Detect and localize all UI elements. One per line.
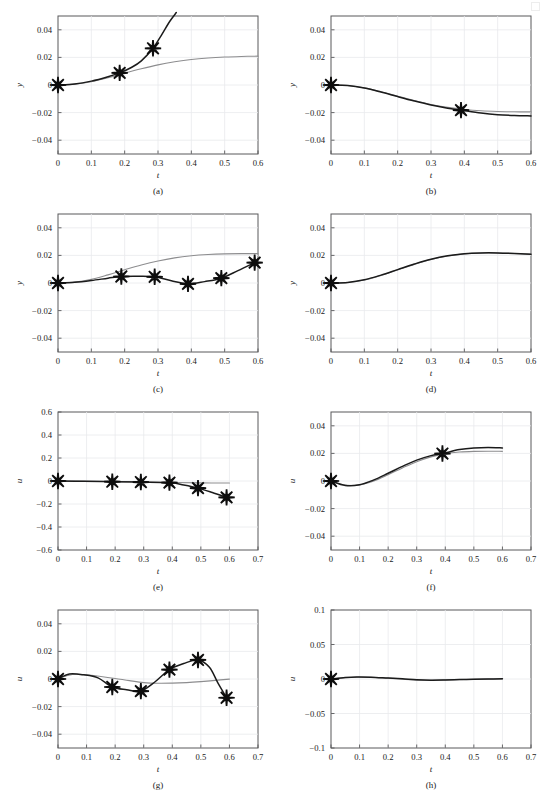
subplot-c: 00.10.20.30.40.50.6−0.04−0.0200.020.04ty… <box>0 198 273 396</box>
marker-point <box>434 445 450 461</box>
y-tick-label: 0 <box>321 278 325 288</box>
x-tick-label: 0.2 <box>383 752 394 762</box>
y-axis-label: u <box>287 676 297 681</box>
subplot-caption: (a) <box>153 186 163 196</box>
x-axis-label: t <box>430 764 433 774</box>
x-tick-label: 0.6 <box>253 158 264 168</box>
x-tick-label: 0.5 <box>468 752 479 762</box>
figure-canvas: 00.10.20.30.40.50.6−0.04−0.0200.020.04ty… <box>0 0 546 795</box>
y-tick-label: −0.04 <box>32 333 53 343</box>
x-tick-label: 0.6 <box>497 752 508 762</box>
data-markers <box>323 671 339 687</box>
y-tick-label: 0.02 <box>37 250 52 260</box>
x-tick-label: 0.3 <box>411 554 422 564</box>
y-tick-label: 0.05 <box>310 640 325 650</box>
y-tick-label: −0.02 <box>32 702 52 712</box>
x-tick-label: 0.2 <box>392 356 403 366</box>
subplot-caption: (e) <box>153 582 163 592</box>
y-tick-label: −0.1 <box>309 743 325 753</box>
subplot-g: 00.10.20.30.40.50.60.7−0.04−0.0200.020.0… <box>0 594 273 792</box>
marker-point <box>323 671 339 687</box>
x-tick-label: 0 <box>329 356 333 366</box>
x-tick-label: 0 <box>329 554 333 564</box>
marker-point <box>104 473 120 489</box>
x-tick-label: 0 <box>329 752 333 762</box>
x-tick-label: 0.1 <box>81 752 92 762</box>
y-tick-label: −0.2 <box>36 499 52 509</box>
x-tick-label: 0.5 <box>195 554 206 564</box>
marker-point <box>246 254 262 270</box>
x-tick-label: 0.6 <box>253 356 264 366</box>
x-tick-label: 0.5 <box>219 356 230 366</box>
subplot-caption: (f) <box>427 582 436 592</box>
y-tick-label: 0.04 <box>37 223 53 233</box>
subplot-d: 00.10.20.30.40.50.6−0.04−0.0200.020.04ty… <box>273 198 546 396</box>
y-tick-label: 0.04 <box>37 25 53 35</box>
y-tick-label: −0.02 <box>305 108 325 118</box>
marker-point <box>113 268 129 284</box>
y-tick-label: −0.04 <box>32 729 53 739</box>
y-tick-label: 0.04 <box>310 25 326 35</box>
x-tick-label: 0.4 <box>440 554 451 564</box>
y-axis-label: u <box>14 676 24 681</box>
x-tick-label: 0.5 <box>195 752 206 762</box>
y-tick-label: 0.02 <box>310 52 325 62</box>
y-tick-label: −0.04 <box>305 135 326 145</box>
y-tick-label: 0.2 <box>41 453 52 463</box>
x-tick-label: 0.1 <box>359 158 370 168</box>
x-tick-label: 0.2 <box>119 356 130 366</box>
marker-point <box>111 65 127 81</box>
x-tick-label: 0.4 <box>167 752 178 762</box>
y-tick-label: 0.02 <box>310 448 325 458</box>
x-tick-label: 0.1 <box>354 554 365 564</box>
marker-point <box>218 690 234 706</box>
y-tick-label: 0.4 <box>41 430 52 440</box>
x-tick-label: 0.1 <box>86 356 97 366</box>
x-tick-label: 0.2 <box>119 158 130 168</box>
subplot-caption: (h) <box>426 780 437 790</box>
marker-point <box>50 473 66 489</box>
subplot-f: 00.10.20.30.40.50.60.7−0.04−0.0200.020.0… <box>273 396 546 594</box>
x-tick-label: 0.3 <box>153 356 164 366</box>
y-axis-label: y <box>287 281 297 286</box>
y-tick-label: 0.1 <box>314 605 325 615</box>
x-tick-label: 0.7 <box>253 752 264 762</box>
x-tick-label: 0.3 <box>426 158 437 168</box>
y-tick-label: 0.02 <box>37 646 52 656</box>
y-tick-label: −0.6 <box>36 545 52 555</box>
x-tick-label: 0 <box>56 554 60 564</box>
x-axis-label: t <box>157 368 160 378</box>
y-tick-label: −0.04 <box>32 135 53 145</box>
y-axis-label: y <box>287 83 297 88</box>
subplot-caption: (g) <box>153 780 164 790</box>
x-tick-label: 0.7 <box>526 752 537 762</box>
subplot-caption: (b) <box>426 186 437 196</box>
y-tick-label: 0 <box>48 674 52 684</box>
y-tick-label: 0.04 <box>310 421 326 431</box>
x-tick-label: 0.5 <box>492 158 503 168</box>
y-tick-label: 0 <box>321 80 325 90</box>
x-axis-label: t <box>430 368 433 378</box>
y-axis-label: y <box>14 281 24 286</box>
x-tick-label: 0.3 <box>411 752 422 762</box>
marker-point <box>323 473 339 489</box>
marker-point <box>133 683 149 699</box>
x-tick-label: 0.6 <box>224 752 235 762</box>
x-tick-label: 0.2 <box>383 554 394 564</box>
y-tick-label: −0.04 <box>305 531 326 541</box>
marker-point <box>323 275 339 291</box>
y-axis-label: y <box>14 83 24 88</box>
x-tick-label: 0.7 <box>526 554 537 564</box>
x-tick-label: 0.4 <box>459 356 470 366</box>
subplot-caption: (c) <box>153 384 163 394</box>
x-tick-label: 0.3 <box>138 554 149 564</box>
x-tick-label: 0.1 <box>354 752 365 762</box>
x-tick-label: 0.1 <box>86 158 97 168</box>
x-tick-label: 0.5 <box>492 356 503 366</box>
marker-point <box>104 679 120 695</box>
y-tick-label: −0.02 <box>305 504 325 514</box>
y-tick-label: 0.04 <box>310 223 326 233</box>
x-axis-label: t <box>157 170 160 180</box>
marker-point <box>161 661 177 677</box>
y-tick-label: 0 <box>48 476 52 486</box>
